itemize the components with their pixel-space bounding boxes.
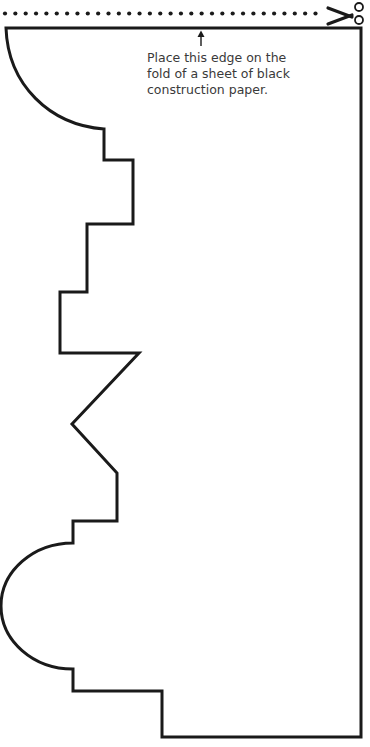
cut-dot: [75, 11, 79, 15]
right-edge-line: [162, 28, 361, 737]
cut-dot: [13, 11, 17, 15]
instruction-line-2: fold of a sheet of black: [147, 66, 297, 82]
cut-dot: [272, 11, 276, 15]
cut-dot: [55, 11, 59, 15]
cut-dot: [251, 11, 255, 15]
instruction-line-1: Place this edge on the: [147, 50, 297, 66]
cut-dot: [241, 11, 245, 15]
cut-dot: [293, 11, 297, 15]
cut-dot: [200, 11, 204, 15]
cutout-outline: [1, 28, 361, 737]
cut-dot: [86, 11, 90, 15]
cut-dot: [3, 11, 7, 15]
cut-dot: [210, 11, 214, 15]
cut-dot: [282, 11, 286, 15]
cut-dot: [127, 11, 131, 15]
cut-dot: [220, 11, 224, 15]
cut-dot: [106, 11, 110, 15]
dotted-cut-line: [3, 11, 318, 15]
cut-dot: [44, 11, 48, 15]
instruction-line-3: construction paper.: [147, 82, 297, 98]
cut-dot: [24, 11, 28, 15]
cut-dot: [117, 11, 121, 15]
cut-dot: [231, 11, 235, 15]
cut-dot: [96, 11, 100, 15]
cut-dot: [65, 11, 69, 15]
cut-dot: [34, 11, 38, 15]
cut-dot: [313, 11, 317, 15]
arrow-up-icon: [198, 31, 205, 47]
cut-dot: [169, 11, 173, 15]
cut-dot: [189, 11, 193, 15]
cut-dot: [148, 11, 152, 15]
instruction-text: Place this edge on the fold of a sheet o…: [147, 50, 297, 98]
cut-dot: [303, 11, 307, 15]
template-canvas: [0, 0, 370, 747]
cut-dot: [158, 11, 162, 15]
cut-dot: [137, 11, 141, 15]
cut-dot: [179, 11, 183, 15]
cut-dot: [262, 11, 266, 15]
scissors-icon: [328, 3, 363, 24]
